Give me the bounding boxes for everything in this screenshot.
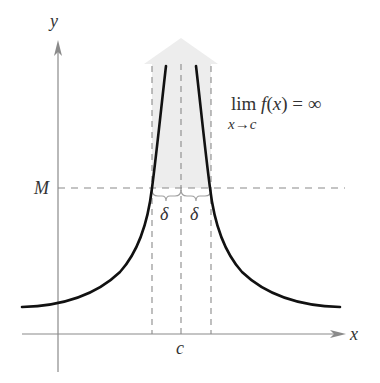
delta-label-left: δ	[160, 204, 169, 224]
delta-brace-left	[152, 190, 181, 201]
c-label: c	[176, 338, 184, 358]
x-axis-label: x	[349, 324, 358, 344]
limit-expression: lim f(x) = ∞	[231, 93, 321, 115]
limit-lim: lim	[231, 93, 261, 114]
limit-subscript: x→c	[227, 116, 257, 132]
y-axis-label: y	[48, 11, 58, 31]
limit-rest: ) = ∞	[281, 93, 321, 115]
infinite-limit-diagram: y x M c δ δ lim f(x) = ∞ x→c	[0, 0, 380, 383]
delta-brace-right	[181, 190, 211, 201]
delta-label-right: δ	[190, 204, 199, 224]
m-label: M	[33, 178, 50, 198]
